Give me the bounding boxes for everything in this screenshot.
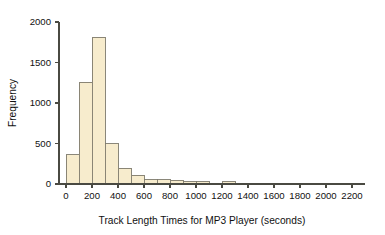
histogram-bar: [105, 144, 118, 185]
x-tick-label: 800: [162, 190, 178, 201]
histogram-bar: [92, 37, 105, 184]
x-axis-title: Track Length Times for MP3 Player (secon…: [99, 215, 306, 226]
y-axis-ticks: 0500100015002000: [30, 16, 59, 189]
histogram-bar: [131, 175, 144, 184]
x-tick-label: 0: [63, 190, 68, 201]
x-tick-label: 1800: [289, 190, 310, 201]
y-tick-label: 2000: [30, 16, 51, 27]
x-tick-label: 200: [84, 190, 100, 201]
y-tick-label: 1500: [30, 57, 51, 68]
x-tick-label: 1000: [185, 190, 206, 201]
histogram-bar: [118, 168, 131, 184]
y-tick-label: 500: [35, 138, 51, 149]
histogram-bar: [157, 180, 170, 184]
x-tick-label: 400: [110, 190, 126, 201]
x-tick-label: 2200: [341, 190, 362, 201]
bars-group: [66, 37, 235, 184]
histogram-bar: [79, 82, 92, 184]
y-axis-title: Frequency: [7, 78, 18, 127]
x-tick-label: 2000: [315, 190, 336, 201]
x-tick-label: 600: [136, 190, 152, 201]
x-tick-label: 1600: [263, 190, 284, 201]
histogram-figure: 0200400600800100012001400160018002000220…: [0, 0, 385, 235]
x-tick-label: 1400: [237, 190, 258, 201]
histogram-bar: [144, 180, 157, 184]
x-tick-label: 1200: [211, 190, 232, 201]
histogram-plot: 0200400600800100012001400160018002000220…: [0, 0, 385, 235]
x-axis-ticks: 0200400600800100012001400160018002000220…: [63, 184, 362, 201]
histogram-bar: [66, 155, 79, 184]
y-tick-label: 1000: [30, 97, 51, 108]
y-tick-label: 0: [46, 178, 51, 189]
